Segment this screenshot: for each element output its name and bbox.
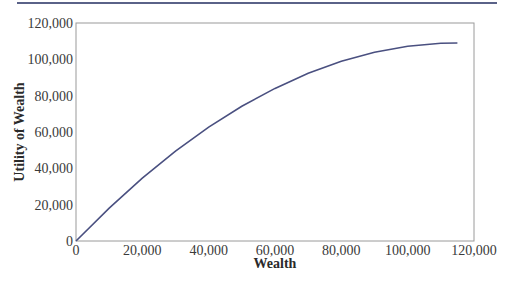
y-tick-label: 40,000	[35, 161, 74, 176]
x-tick-label: 80,000	[322, 243, 361, 258]
utility-chart: 020,00040,00060,00080,000100,000120,000 …	[0, 0, 512, 284]
y-tick-label: 80,000	[35, 89, 74, 104]
y-tick-label: 120,000	[28, 16, 74, 31]
x-tick-label: 100,000	[385, 243, 431, 258]
utility-curve	[76, 43, 457, 241]
plot-frame	[76, 23, 474, 241]
x-tick-label: 0	[73, 243, 80, 258]
x-tick-label: 40,000	[189, 243, 228, 258]
y-tick-label: 100,000	[28, 52, 74, 67]
y-axis-label: Utility of Wealth	[12, 82, 27, 182]
y-tick-label: 20,000	[35, 198, 74, 213]
x-axis-label: Wealth	[254, 256, 297, 271]
x-tick-label: 120,000	[451, 243, 497, 258]
y-axis-ticks: 020,00040,00060,00080,000100,000120,000	[28, 16, 74, 249]
x-tick-label: 20,000	[123, 243, 162, 258]
y-tick-label: 60,000	[35, 125, 74, 140]
